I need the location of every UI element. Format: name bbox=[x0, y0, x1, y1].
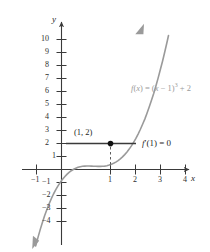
func-label-plus-two: + 2 bbox=[178, 83, 191, 93]
y-tick-label-10: 10 bbox=[41, 35, 49, 43]
y-tick-label-6: 6 bbox=[45, 87, 49, 95]
x-tick-label--1: −1 bbox=[31, 176, 40, 184]
y-tick-label-3: 3 bbox=[45, 126, 49, 134]
y-tick-label-2: 2 bbox=[45, 139, 49, 147]
y-tick-label--3: −3 bbox=[42, 204, 51, 212]
x-tick-label-1: 1 bbox=[108, 176, 112, 184]
y-tick-label-9: 9 bbox=[45, 48, 49, 56]
y-tick-label--4: −4 bbox=[42, 217, 51, 225]
func-label-minus-one: − 1) bbox=[159, 83, 175, 93]
critical-point-label: (1, 2) bbox=[74, 128, 92, 137]
y-tick-label-8: 8 bbox=[45, 61, 49, 69]
plot-canvas bbox=[0, 0, 210, 252]
y-tick-label--2: −2 bbox=[42, 191, 51, 199]
x-axis-label: x bbox=[191, 174, 195, 183]
x-tick-label-4: 4 bbox=[183, 176, 187, 184]
function-expression-label: f(x) = (x − 1)3 + 2 bbox=[131, 84, 191, 93]
y-tick-label-1: 1 bbox=[52, 152, 56, 160]
derivative-label: f′(1) = 0 bbox=[142, 139, 171, 148]
func-label-eq: ) = ( bbox=[140, 83, 155, 93]
y-axis bbox=[57, 22, 67, 245]
x-tick-label-3: 3 bbox=[158, 176, 162, 184]
y-tick-label-4: 4 bbox=[45, 113, 49, 121]
y-tick-label--1: −1 bbox=[42, 178, 51, 186]
curve-arrow-top-icon bbox=[135, 22, 147, 37]
x-tick-label-2: 2 bbox=[133, 176, 137, 184]
y-axis-label: y bbox=[52, 15, 56, 24]
derivative-label-rest: ′(1) = 0 bbox=[145, 138, 172, 148]
filled-dot-icon bbox=[108, 141, 114, 147]
y-tick-label-7: 7 bbox=[45, 74, 49, 82]
function-graph-figure: 10 9 8 7 6 5 4 3 2 1 −1 −2 −3 −4 −1 1 2 … bbox=[0, 0, 210, 252]
y-tick-label-5: 5 bbox=[45, 100, 49, 108]
